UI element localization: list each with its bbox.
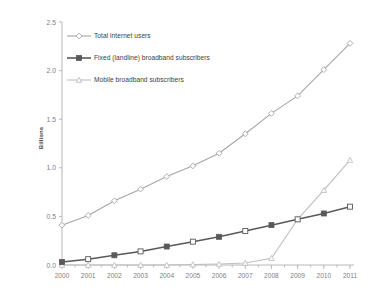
legend-item: Total internet users [66, 31, 296, 53]
data-series [60, 204, 353, 264]
y-axis-tick-marks [59, 22, 62, 265]
data-series [59, 157, 352, 267]
legend-item: Mobile broadband subscribers [66, 75, 296, 97]
chart-legend: Total internet usersFixed (landline) bro… [66, 31, 296, 97]
chart-container: Billions 0.00.51.01.52.02.5 200020012002… [0, 0, 372, 302]
legend-item: Fixed (landline) broadband subscribers [66, 53, 296, 75]
legend-item-label: Total internet users [94, 32, 151, 39]
legend-marker-icon [66, 75, 92, 85]
legend-marker-icon [66, 31, 92, 41]
x-axis-tick-marks [62, 265, 350, 269]
legend-item-label: Mobile broadband subscribers [94, 76, 184, 83]
legend-item-label: Fixed (landline) broadband subscribers [94, 54, 210, 61]
legend-marker-icon [66, 53, 92, 63]
